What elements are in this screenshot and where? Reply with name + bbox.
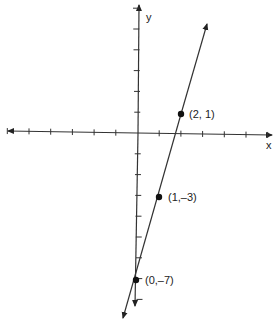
point-label-2-1: (2, 1): [189, 108, 215, 120]
y-axis-label: y: [146, 11, 152, 23]
point-1-neg3: [156, 194, 162, 200]
point-label-1-neg3: (1,–3): [168, 191, 197, 203]
coordinate-plane: x y (2, 1) (1,–3) (0,–7): [0, 0, 278, 329]
point-0-neg7: [133, 277, 139, 283]
x-axis-label: x: [266, 139, 272, 151]
x-axis: [7, 128, 272, 138]
y-axis: [133, 5, 142, 306]
point-2-1: [178, 111, 184, 117]
point-label-0-neg7: (0,–7): [145, 274, 174, 286]
